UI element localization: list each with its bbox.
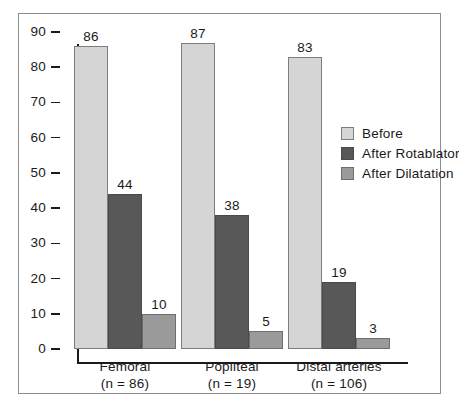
x-axis-group-name: Distal arteries <box>269 358 409 375</box>
y-axis-tick-mark <box>51 313 60 315</box>
y-axis-tick-label-text: 10 <box>20 306 46 321</box>
bar: 38 <box>215 215 249 349</box>
y-axis-tick-mark <box>51 137 60 139</box>
legend-item: Before <box>341 124 459 143</box>
y-axis-tick-label: 60 <box>17 130 46 146</box>
bar-value-label: 3 <box>369 321 377 336</box>
y-axis-tick-label: 20 <box>17 271 46 287</box>
y-axis-tick-label-text: 70 <box>20 94 46 109</box>
y-axis-tick-label: 0 <box>17 341 46 357</box>
bar-value-label: 5 <box>262 314 270 329</box>
chart-legend: BeforeAfter RotablatorAfter Dilatation <box>341 124 459 184</box>
bar-value-label: 19 <box>331 265 346 280</box>
legend-item: After Dilatation <box>341 164 459 183</box>
bar-value-label: 87 <box>190 26 205 41</box>
legend-item-label: After Dilatation <box>362 166 454 181</box>
y-axis-tick-label: 90 <box>17 24 46 40</box>
y-axis-tick-label-text: 60 <box>20 130 46 145</box>
y-axis-tick-mark <box>51 278 60 280</box>
y-axis-tick-label-text: 90 <box>20 24 46 39</box>
y-axis-tick-label-text: 50 <box>20 165 46 180</box>
bar: 3 <box>356 338 390 349</box>
y-axis-tick-label: 70 <box>17 94 46 110</box>
legend-swatch-icon <box>341 127 354 140</box>
y-axis-tick-label: 50 <box>17 165 46 181</box>
figure-frame: 9080706050403020100 8644108738583193 Fem… <box>18 13 441 394</box>
y-axis-tick-mark <box>51 348 60 350</box>
y-axis-tick-mark <box>51 66 60 68</box>
x-axis-group-label: Distal arteries(n = 106) <box>269 358 409 392</box>
x-axis-group-count: (n = 106) <box>269 375 409 392</box>
bar: 86 <box>74 46 108 349</box>
y-axis-tick-mark <box>51 243 60 245</box>
legend-item-label: Before <box>362 126 403 141</box>
bar: 5 <box>249 331 283 349</box>
y-axis-tick-label: 80 <box>17 59 46 75</box>
bar-chart-figure: 9080706050403020100 8644108738583193 Fem… <box>0 0 459 407</box>
y-axis-tick-mark <box>51 172 60 174</box>
y-axis-tick-label-text: 30 <box>20 235 46 250</box>
y-axis-tick-label: 40 <box>17 200 46 216</box>
bar-value-label: 10 <box>151 297 166 312</box>
bar: 10 <box>142 314 176 349</box>
y-axis-tick-mark <box>51 31 60 33</box>
bar: 87 <box>181 43 215 349</box>
y-axis-tick-label-text: 40 <box>20 200 46 215</box>
legend-item: After Rotablator <box>341 144 459 163</box>
legend-item-label: After Rotablator <box>362 146 459 161</box>
y-axis-tick-label-text: 80 <box>20 59 46 74</box>
y-axis-tick-mark <box>51 102 60 104</box>
y-axis-tick-label-text: 20 <box>20 271 46 286</box>
legend-swatch-icon <box>341 147 354 160</box>
bar: 83 <box>288 57 322 349</box>
bar-value-label: 38 <box>224 198 239 213</box>
bar-value-label: 83 <box>297 40 312 55</box>
legend-swatch-icon <box>341 167 354 180</box>
y-axis-tick-mark <box>51 207 60 209</box>
bar: 19 <box>322 282 356 349</box>
y-axis-tick-label: 10 <box>17 306 46 322</box>
bar: 44 <box>108 194 142 349</box>
y-axis-tick-label: 30 <box>17 235 46 251</box>
bar-value-label: 44 <box>117 177 132 192</box>
bar-value-label: 86 <box>83 29 98 44</box>
y-axis-tick-label-text: 0 <box>20 341 46 356</box>
